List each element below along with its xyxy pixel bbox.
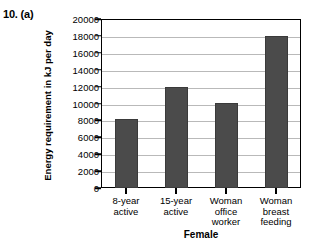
x-axis-tick-label-line: active: [151, 207, 201, 218]
x-axis-title: Female: [101, 229, 301, 240]
y-axis-tick-label: 0: [55, 183, 99, 194]
x-axis-tick-mark: [225, 188, 227, 194]
x-axis-tick-label: Womanbreastfeeding: [251, 196, 301, 228]
x-axis-tick-marks: [101, 188, 301, 195]
x-axis-tick-label: 8-yearactive: [101, 196, 151, 217]
bar: [265, 36, 288, 188]
x-axis-tick-label: 15-yearactive: [151, 196, 201, 217]
y-axis-tick-label: 6000: [55, 132, 99, 143]
bar-series: [101, 19, 301, 188]
question-label: 10. (a): [3, 8, 33, 20]
x-axis-tick-label-line: Woman: [201, 196, 251, 207]
y-axis-tick-label: 8000: [55, 115, 99, 126]
bar: [215, 103, 238, 188]
bar: [115, 119, 138, 188]
y-axis-tick-label: 14000: [55, 64, 99, 75]
y-axis-tick-label: 16000: [55, 47, 99, 58]
y-axis-tick-labels: 0200040006000800010000120001400016000180…: [55, 0, 99, 242]
chart-figure: 10. (a) Energy requirement in kJ per day…: [0, 0, 310, 242]
x-axis-tick-mark: [175, 188, 177, 194]
x-axis-tick-label-line: 8-year: [101, 196, 151, 207]
x-axis-tick-label-line: Woman: [251, 196, 301, 207]
x-axis-tick-label-line: feeding: [251, 217, 301, 228]
y-axis-tick-label: 12000: [55, 81, 99, 92]
y-axis-tick-label: 10000: [55, 98, 99, 109]
x-axis-tick-mark: [275, 188, 277, 194]
y-axis-tick-label: 4000: [55, 149, 99, 160]
y-axis-tick-label: 18000: [55, 30, 99, 41]
x-axis-tick-label-line: worker: [201, 217, 251, 228]
y-axis-title: Energy requirement in kJ per day: [42, 13, 53, 199]
x-axis-tick-mark: [125, 188, 127, 194]
y-axis-tick-label: 2000: [55, 166, 99, 177]
x-axis-tick-label: Womanofficeworker: [201, 196, 251, 228]
x-axis-tick-label-line: 15-year: [151, 196, 201, 207]
y-axis-tick-label: 20000: [55, 14, 99, 25]
x-axis-tick-label-line: active: [101, 207, 151, 218]
bar: [165, 87, 188, 188]
